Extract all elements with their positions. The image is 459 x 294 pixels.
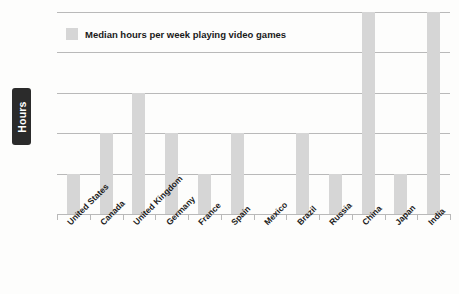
bar bbox=[100, 133, 113, 214]
x-axis-tick bbox=[417, 214, 418, 220]
bar bbox=[362, 12, 375, 214]
gridline bbox=[57, 52, 450, 53]
x-axis-tick bbox=[188, 214, 189, 220]
x-axis-tick bbox=[450, 214, 451, 220]
x-axis-tick bbox=[123, 214, 124, 220]
x-axis-tick bbox=[221, 214, 222, 220]
gridline bbox=[57, 133, 450, 134]
x-axis-tick bbox=[319, 214, 320, 220]
x-axis-tick bbox=[90, 214, 91, 220]
x-axis-tick bbox=[254, 214, 255, 220]
gridline bbox=[57, 93, 450, 94]
gridline bbox=[57, 174, 450, 175]
plot-area: 012345 bbox=[57, 12, 450, 214]
gridline bbox=[57, 12, 450, 13]
legend-swatch-icon bbox=[66, 28, 78, 40]
bar-chart: Hours 012345 United StatesCanadaUnited K… bbox=[0, 0, 459, 294]
bar bbox=[296, 133, 309, 214]
x-axis-tick bbox=[57, 214, 58, 220]
x-axis-tick bbox=[286, 214, 287, 220]
bar bbox=[132, 93, 145, 214]
bar bbox=[427, 12, 440, 214]
x-axis-tick bbox=[155, 214, 156, 220]
y-axis-title: Hours bbox=[12, 88, 31, 145]
chart-legend: Median hours per week playing video game… bbox=[66, 28, 286, 40]
y-axis-title-label: Hours bbox=[16, 101, 28, 132]
x-axis-tick bbox=[352, 214, 353, 220]
bar bbox=[231, 133, 244, 214]
legend-label: Median hours per week playing video game… bbox=[85, 29, 286, 40]
x-axis-tick bbox=[385, 214, 386, 220]
